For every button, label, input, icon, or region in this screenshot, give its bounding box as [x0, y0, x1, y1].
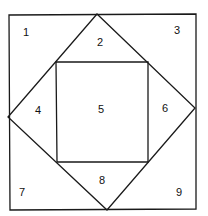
region-label-6: 6	[162, 102, 168, 114]
region-label-4: 4	[35, 104, 41, 116]
region-label-9: 9	[176, 186, 182, 198]
region-label-7: 7	[19, 186, 25, 198]
region-label-5: 5	[98, 103, 104, 115]
quilt-block-diagram: 1 2 3 4 5 6 7 8 9	[0, 0, 208, 216]
region-label-2: 2	[97, 36, 103, 48]
region-label-1: 1	[23, 26, 29, 38]
region-label-8: 8	[99, 174, 105, 186]
region-label-3: 3	[174, 24, 180, 36]
